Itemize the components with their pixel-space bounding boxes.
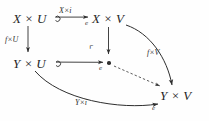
edge-label-left-vertical: f×U [5, 35, 18, 44]
node-mid-left: Y × U [13, 56, 46, 72]
edge-sublabel-top-horizontal: e [85, 19, 88, 27]
edge-sublabel-bottom-curve: e [152, 104, 155, 112]
node-mid-center-dot [107, 61, 111, 65]
pullback-corner-marker: ⌜ [89, 44, 94, 55]
commutative-diagram: X × U X × V Y × U Y × V ⌜ X×i e f×U e f×… [0, 0, 209, 121]
node-top-right: X × V [92, 11, 124, 27]
node-bottom-right: Y × V [160, 88, 191, 104]
edge-diagonal-dashed [114, 66, 160, 86]
edge-mid-horizontal [56, 61, 103, 66]
edge-bottom-curve [35, 71, 158, 106]
node-top-left: X × U [13, 11, 47, 27]
edge-label-bottom-curve: Y×i [75, 98, 87, 107]
edge-label-right-curve: f×V [147, 48, 160, 57]
edge-top-horizontal [56, 16, 89, 21]
edge-sublabel-mid-horizontal: e [99, 64, 102, 72]
edge-label-top-horizontal: X×i [59, 6, 72, 15]
